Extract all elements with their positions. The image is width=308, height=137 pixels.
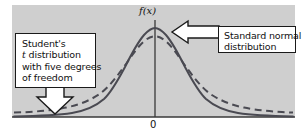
right-callout-arrow — [172, 21, 219, 43]
students-t-callout-line-4: of freedom — [22, 72, 90, 83]
standard-normal-callout-line-1: Standard normal — [224, 30, 291, 41]
standard-normal-callout-line-2: distribution — [224, 41, 291, 52]
y-axis-label-text: f(x) — [139, 5, 156, 16]
students-t-callout-line-2-rest: distribution — [26, 49, 81, 60]
y-axis-label: f(x) — [139, 5, 156, 16]
students-t-callout-line-3: with five degrees — [22, 61, 90, 72]
statistics-distribution-figure: f(x) 0 Student's t distribution with fiv… — [0, 0, 308, 137]
x-axis-origin-label: 0 — [150, 119, 156, 130]
students-t-callout-line-2: t distribution — [22, 49, 90, 60]
students-t-callout-line-1: Student's — [22, 38, 90, 49]
students-t-callout-box: Student's t distribution with five degre… — [15, 33, 96, 88]
standard-normal-callout-box: Standard normal distribution — [218, 26, 296, 53]
